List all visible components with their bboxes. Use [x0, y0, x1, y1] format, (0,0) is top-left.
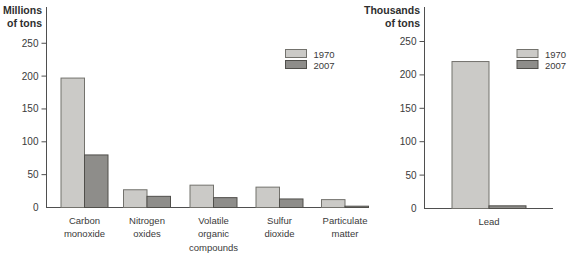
- legend-swatch-2007: [517, 61, 538, 69]
- legend-swatch-2007: [286, 61, 307, 69]
- y-tick-label: 100: [400, 136, 417, 147]
- bar-1970-lead: [452, 62, 489, 209]
- y-tick-label: 200: [22, 71, 39, 82]
- category-label-volatile-organic-compounds-line3: compounds: [189, 242, 238, 253]
- y-tick-label: 200: [400, 69, 417, 80]
- axis-unit-label-line1: Thousands: [364, 4, 420, 16]
- category-label-nitrogen-oxides-line2: oxides: [133, 228, 161, 239]
- bar-1970-particulate-matter: [322, 200, 346, 208]
- y-tick-label: 150: [22, 103, 39, 114]
- category-label-volatile-organic-compounds-line2: organic: [198, 228, 229, 239]
- y-tick-label: 50: [405, 170, 417, 181]
- category-label-sulfur-dioxide-line2: dioxide: [264, 228, 294, 239]
- category-label-nitrogen-oxides-line1: Nitrogen: [129, 215, 165, 226]
- chart-millions-of-tons: 050100150200250CarbonmonoxideNitrogenoxi…: [0, 0, 380, 254]
- y-tick-label: 0: [411, 203, 417, 214]
- axis-unit-label-line1: Millions: [3, 4, 42, 16]
- category-label-carbon-monoxide-line2: monoxide: [64, 228, 105, 239]
- y-tick-label: 100: [22, 136, 39, 147]
- y-tick-label: 0: [33, 202, 39, 213]
- y-tick-label: 250: [22, 38, 39, 49]
- chart-thousands-of-tons: 050100150200250LeadThousandsof tons19702…: [360, 0, 573, 254]
- bar-2007-lead: [489, 206, 526, 209]
- legend-label-1970: 1970: [545, 49, 566, 60]
- legend-label-2007: 2007: [545, 60, 566, 71]
- emissions-comparison-figure: 050100150200250CarbonmonoxideNitrogenoxi…: [0, 0, 573, 254]
- bar-2007-carbon-monoxide: [85, 155, 109, 208]
- legend-label-1970: 1970: [314, 49, 335, 60]
- bar-1970-nitrogen-oxides: [124, 190, 148, 208]
- category-label-lead-line1: Lead: [478, 216, 499, 227]
- category-label-volatile-organic-compounds-line1: Volatile: [198, 215, 229, 226]
- bar-2007-volatile-organic-compounds: [214, 198, 238, 208]
- legend-label-2007: 2007: [314, 60, 335, 71]
- y-tick-label: 250: [400, 36, 417, 47]
- legend-swatch-1970: [286, 50, 307, 58]
- y-tick-label: 50: [27, 169, 39, 180]
- axis-unit-label-line2: of tons: [385, 17, 420, 29]
- category-label-carbon-monoxide-line1: Carbon: [69, 215, 100, 226]
- category-label-particulate-matter-line2: matter: [332, 228, 359, 239]
- bar-1970-carbon-monoxide: [61, 78, 85, 207]
- y-tick-label: 150: [400, 103, 417, 114]
- bar-2007-sulfur-dioxide: [280, 199, 304, 208]
- bar-1970-sulfur-dioxide: [256, 187, 280, 207]
- axis-unit-label-line2: of tons: [7, 17, 42, 29]
- legend-swatch-1970: [517, 50, 538, 58]
- bar-2007-nitrogen-oxides: [147, 196, 171, 207]
- bar-1970-volatile-organic-compounds: [190, 185, 214, 207]
- category-label-sulfur-dioxide-line1: Sulfur: [267, 215, 292, 226]
